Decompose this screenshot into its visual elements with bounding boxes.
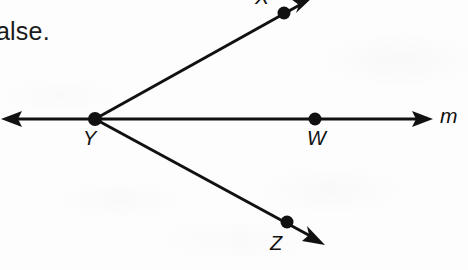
point-label-y: Y [83, 127, 96, 150]
geometry-figure [0, 0, 468, 270]
point-label-w: W [307, 127, 326, 150]
point-dot-y [88, 112, 102, 126]
point-label-z: Z [270, 232, 282, 255]
point-label-x: X [255, 0, 269, 9]
point-dot-x [278, 7, 291, 20]
ray-yz-arrowhead [302, 226, 325, 245]
line-m [1, 111, 433, 127]
point-dot-z [281, 216, 294, 229]
scanned-page: alse. X W Z Y m [0, 0, 468, 270]
truncated-sentence-fragment: alse. [0, 17, 50, 46]
ray-yx-segment [95, 2, 305, 119]
point-dot-w [309, 113, 322, 126]
line-label-m: m [440, 104, 458, 128]
